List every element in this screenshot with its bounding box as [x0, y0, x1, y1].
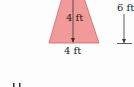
- dimension-arrow-head: [122, 39, 126, 43]
- bottom-width-label: 4 ft: [64, 46, 81, 56]
- height-label: 4 ft: [66, 13, 83, 23]
- partial-glyph-left: [13, 83, 15, 87]
- right-dimension-label: 6 ft: [117, 3, 134, 13]
- partial-glyph-right: [19, 83, 21, 87]
